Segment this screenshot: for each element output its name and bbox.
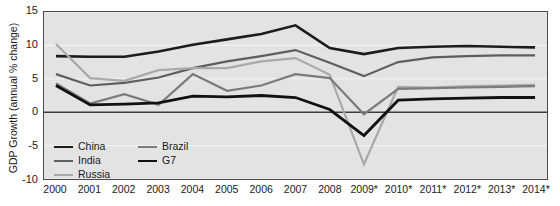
x-tick-label: 2010* [385, 183, 412, 195]
y-axis-tick-labels: 151050-5-10 [0, 0, 43, 206]
x-tick-label: 2012* [454, 183, 481, 195]
y-tick-label: 5 [0, 73, 38, 84]
legend-item-india: India [54, 154, 110, 167]
y-tick-label: 0 [0, 106, 38, 117]
legend-label: Russia [78, 169, 110, 180]
y-tick-label: 10 [0, 39, 38, 50]
legend-label: India [78, 155, 101, 166]
x-tick-label: 2000 [43, 183, 66, 195]
legend-column-1: ChinaIndiaRussia [54, 140, 110, 182]
legend-item-brazil: Brazil [138, 140, 188, 153]
legend-label: Brazil [162, 141, 188, 152]
x-tick-label: 2013* [488, 183, 515, 195]
x-tick-label: 2014* [522, 183, 549, 195]
y-tick-label: 15 [0, 5, 38, 16]
series-line-china [56, 25, 535, 56]
series-line-g7 [56, 85, 535, 135]
legend-swatch-icon [54, 160, 73, 162]
y-tick-label: -5 [0, 140, 38, 151]
legend-item-china: China [54, 140, 110, 153]
legend-label: G7 [162, 155, 176, 166]
legend-swatch-icon [138, 160, 157, 162]
legend-label: China [78, 141, 105, 152]
legend-swatch-icon [54, 174, 73, 176]
x-tick-label: 2004 [181, 183, 204, 195]
x-tick-label: 2006 [249, 183, 272, 195]
legend-column-2: BrazilG7 [138, 140, 188, 168]
gdp-growth-line-chart: GDP Growth (annual % change) 151050-5-10… [0, 0, 560, 206]
x-tick-label: 2002 [112, 183, 135, 195]
legend-item-russia: Russia [54, 168, 110, 181]
x-tick-label: 2005 [215, 183, 238, 195]
x-axis-tick-labels: 2000200120022003200420052006200720082009… [43, 183, 548, 203]
y-tick-label: -10 [0, 174, 38, 185]
x-tick-label: 2001 [78, 183, 101, 195]
x-tick-label: 2011* [420, 183, 447, 195]
chart-title-truncated [0, 0, 560, 5]
legend-item-g7: G7 [138, 154, 188, 167]
x-tick-label: 2007 [284, 183, 307, 195]
x-tick-label: 2008 [318, 183, 341, 195]
x-tick-label: 2009* [350, 183, 377, 195]
legend-swatch-icon [138, 146, 157, 148]
legend-swatch-icon [54, 146, 73, 148]
chart-legend: ChinaIndiaRussia BrazilG7 [54, 140, 214, 180]
x-tick-label: 2003 [146, 183, 169, 195]
